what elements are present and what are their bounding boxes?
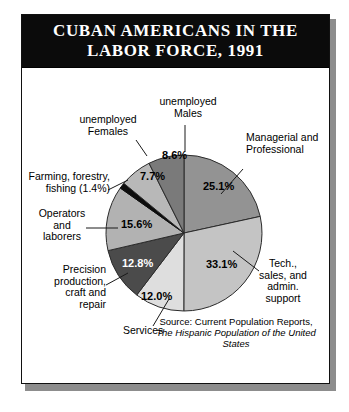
label-unemployed-males: unemployed Males xyxy=(157,96,219,119)
page-title-line-2: LABOR FORCE, 1991 xyxy=(87,41,264,61)
label-managerial: Managerial and Professional xyxy=(246,132,330,155)
leader-line-unemployed-females xyxy=(136,140,147,156)
value-services: 12.0% xyxy=(141,290,172,302)
value-managerial: 25.1% xyxy=(203,180,234,192)
label-unemployed-females: unemployed Females xyxy=(74,114,142,137)
label-farming: Farming, forestry, fishing (1.4%) xyxy=(18,171,110,194)
value-operators: 15.6% xyxy=(121,218,152,230)
value-unemployed-males: 8.6% xyxy=(162,149,187,161)
value-tech-sales: 33.1% xyxy=(206,258,237,270)
title-banner: CUBAN AMERICANS IN THE LABOR FORCE, 1991 xyxy=(22,15,329,68)
label-operators: Operators and laborers xyxy=(32,208,92,243)
source-line-1: Source: Current Population Reports, xyxy=(150,316,322,327)
label-tech-sales: Tech., sales, and admin. support xyxy=(254,258,312,304)
value-unemployed-females: 7.7% xyxy=(140,170,165,182)
value-precision: 12.8% xyxy=(122,257,153,269)
pie-slices xyxy=(106,155,262,311)
source-note: Source: Current Population Reports, The … xyxy=(150,316,322,349)
source-line-2: The Hispanic Population of the United St… xyxy=(150,327,322,349)
label-precision: Precision production, craft and repair xyxy=(30,264,106,310)
pie-chart-stage: Managerial and Professional Tech., sales… xyxy=(22,68,329,384)
chart-card: CUBAN AMERICANS IN THE LABOR FORCE, 1991 xyxy=(21,14,330,384)
page-title-line-1: CUBAN AMERICANS IN THE xyxy=(53,21,298,41)
